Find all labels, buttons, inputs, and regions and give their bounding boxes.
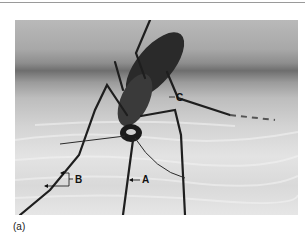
label-c: C (176, 93, 183, 103)
top-rule (0, 2, 305, 3)
figure-caption: (a) (13, 221, 25, 232)
mosquito-illustration (15, 20, 298, 215)
label-a: A (142, 175, 149, 185)
mosquito-photo (15, 20, 298, 215)
label-b: B (75, 175, 82, 185)
